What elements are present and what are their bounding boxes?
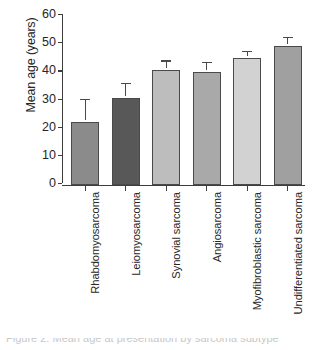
x-axis-label: Synovial sarcoma — [171, 192, 182, 279]
y-tick-label: 20 — [30, 120, 56, 133]
error-bar-stem — [125, 83, 126, 96]
y-tick-mark — [58, 99, 63, 100]
error-bar-cap — [202, 62, 212, 63]
error-bar-stem — [206, 62, 207, 70]
error-bar-cap — [80, 99, 90, 100]
y-tick-label: 0 — [30, 177, 56, 190]
y-tick-label: 10 — [30, 149, 56, 162]
bar — [193, 72, 221, 185]
bar-chart-figure: Mean age (years) 0102030405060 Rhabdomyo… — [0, 0, 317, 350]
bar — [233, 58, 261, 185]
plot-area — [62, 14, 305, 186]
error-bar-cap — [242, 51, 252, 52]
x-axis-label: Undifferentiated sarcoma — [293, 192, 304, 314]
x-axis-label: Myofibroblastic sarcoma — [252, 192, 263, 310]
y-tick-mark — [58, 155, 63, 156]
x-axis-label: Rhabdomyosarcoma — [90, 192, 101, 294]
y-axis-line — [62, 14, 63, 183]
y-tick-mark — [58, 183, 63, 184]
error-bar-cap — [283, 37, 293, 38]
bar — [152, 70, 180, 185]
x-axis-label: Angiosarcoma — [212, 192, 223, 262]
y-tick-label: 50 — [30, 36, 56, 49]
y-tick-label: 60 — [30, 8, 56, 21]
x-axis-category-labels: RhabdomyosarcomaLeiomyosarcomaSynovial s… — [62, 186, 305, 316]
figure-caption-text: Figure 2. Mean age at presentation by sa… — [6, 338, 279, 344]
bar — [112, 98, 140, 185]
error-bar-cap — [121, 83, 131, 84]
y-tick-mark — [58, 70, 63, 71]
y-tick-mark — [58, 42, 63, 43]
bar — [274, 46, 302, 185]
error-bar-cap — [161, 60, 171, 61]
y-tick-label: 40 — [30, 64, 56, 77]
y-tick-mark — [58, 127, 63, 128]
y-tick-label: 30 — [30, 92, 56, 105]
x-axis-label: Leiomyosarcoma — [131, 192, 142, 276]
y-axis-tick-labels: 0102030405060 — [28, 0, 56, 350]
error-bar-stem — [85, 99, 86, 120]
bar — [71, 122, 99, 185]
figure-caption: Figure 2. Mean age at presentation by sa… — [6, 338, 311, 350]
y-tick-mark — [58, 14, 63, 15]
